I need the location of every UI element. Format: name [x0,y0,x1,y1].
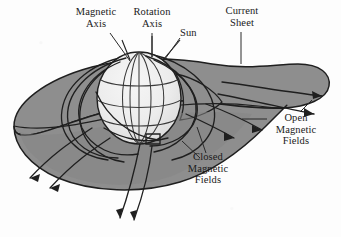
label-open-magnetic-fields: Open Magnetic Fields [268,112,324,147]
arrowhead-l2 [50,184,60,192]
label-closed-magnetic-fields-line3: Fields [180,174,236,186]
label-open-magnetic-fields-line1: Open [268,112,324,124]
label-current-sheet: Current Sheet [216,5,268,28]
label-sun-line1: Sun [180,27,197,39]
arrowhead-l1 [30,174,40,182]
label-rotation-axis-line2: Axis [126,18,178,30]
label-magnetic-axis-line1: Magnetic [70,6,122,18]
label-current-sheet-line1: Current [216,5,268,17]
label-closed-magnetic-fields-line2: Magnetic [180,163,236,175]
leader-sun [165,38,180,59]
label-closed-magnetic-fields-line1: Closed [180,151,236,163]
label-magnetic-axis-line2: Axis [70,18,122,30]
label-rotation-axis-line1: Rotation [126,6,178,18]
label-rotation-axis: Rotation Axis [126,6,178,29]
label-open-magnetic-fields-line3: Fields [268,135,324,147]
figure-container: Magnetic Axis Rotation Axis Sun Current … [0,0,341,237]
label-open-magnetic-fields-line2: Magnetic [268,124,324,136]
label-sun: Sun [180,27,197,39]
label-current-sheet-line2: Sheet [216,17,268,29]
label-magnetic-axis: Magnetic Axis [70,6,122,29]
label-closed-magnetic-fields: Closed Magnetic Fields [180,151,236,186]
